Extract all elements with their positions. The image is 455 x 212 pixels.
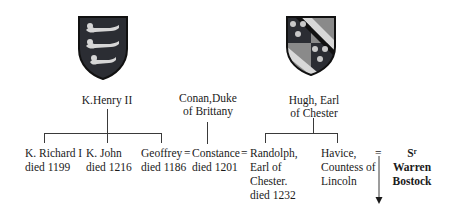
henry-ii-label: K.Henry II	[72, 93, 142, 108]
constance-name: Constance	[192, 146, 240, 161]
havice-title: Countess of	[321, 160, 376, 175]
havice-drop-line	[337, 133, 338, 143]
constance-died: died 1201	[192, 160, 238, 175]
geoffrey-name: Geoffrey	[141, 146, 182, 161]
richard-drop-line	[44, 133, 45, 143]
randolph-title-2: Chester.	[250, 174, 287, 189]
henry-children-bar	[44, 133, 162, 134]
descent-arrow-icon	[374, 156, 384, 206]
warren-bostock-title: Sʳ	[388, 146, 436, 161]
hugh-children-bar	[265, 133, 338, 134]
henry-ii-three-lions-shield-icon	[77, 15, 129, 81]
conan-duke-label-line2: of Brittany	[170, 104, 246, 119]
john-name: K. John	[86, 146, 122, 161]
richard-i-name: K. Richard I	[25, 146, 82, 161]
geoffrey-died: died 1186	[141, 160, 186, 175]
earl-of-chester-shield-icon	[285, 15, 337, 77]
randolph-name: Randolph,	[250, 146, 298, 161]
henry-descent-line	[107, 109, 108, 143]
randolph-drop-line	[265, 133, 266, 143]
hugh-descent-line	[313, 118, 314, 134]
warren-bostock-first-name: Warren	[388, 160, 436, 175]
hugh-earl-label-line2: of Chester	[276, 106, 352, 121]
geoffrey-drop-line	[161, 133, 162, 143]
richard-i-died: died 1199	[25, 160, 70, 175]
havice-name: Havice,	[321, 146, 356, 161]
havice-title-2: Lincoln	[321, 174, 357, 189]
marriage-symbol-constance-randolph: =	[241, 146, 248, 161]
conan-descent-line	[207, 122, 208, 144]
john-died: died 1216	[86, 160, 132, 175]
randolph-died: died 1232	[250, 188, 296, 203]
randolph-title: Earl of	[250, 160, 282, 175]
warren-bostock-surname: Bostock	[388, 174, 436, 189]
marriage-symbol-geoffrey-constance: =	[184, 146, 191, 161]
